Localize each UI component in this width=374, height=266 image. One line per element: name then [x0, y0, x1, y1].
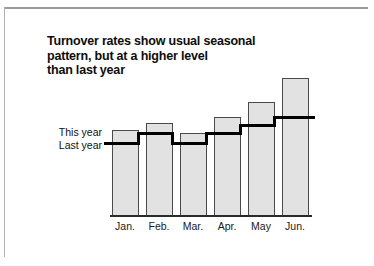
bar-mar	[180, 133, 207, 216]
step-line-mar	[171, 142, 208, 145]
x-tick-label-mar: Mar.	[176, 220, 210, 232]
plot-area: Jan. Feb. Mar. Apr. May Jun. This year L…	[0, 0, 374, 266]
x-tick-label-feb: Feb.	[142, 220, 176, 232]
legend-label-last-year: Last year	[40, 139, 102, 151]
bar-feb	[146, 123, 173, 216]
legend-label-this-year: This year	[40, 126, 102, 138]
bar-may	[248, 102, 275, 216]
x-tick-label-may: May	[244, 220, 278, 232]
chart-image: Turnover rates show usual seasonal patte…	[0, 0, 374, 266]
step-line-may	[239, 124, 276, 127]
x-tick-label-jun: Jun.	[278, 220, 312, 232]
step-line-jan	[104, 142, 140, 145]
x-tick-label-jan: Jan.	[108, 220, 142, 232]
step-line-feb	[137, 132, 174, 135]
bar-jun	[282, 78, 309, 216]
step-line-apr	[205, 132, 242, 135]
step-line-jun	[273, 116, 315, 119]
x-tick-label-apr: Apr.	[210, 220, 244, 232]
x-axis-baseline	[110, 215, 312, 217]
